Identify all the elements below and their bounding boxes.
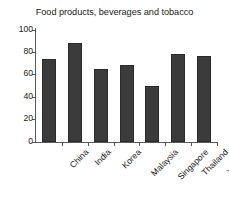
bar: [68, 43, 82, 142]
x-axis-category-label: Korea: [119, 147, 142, 170]
x-axis-category-label: China: [68, 147, 91, 170]
x-axis-tick-mark: [217, 142, 218, 146]
x-axis-tick-mark: [62, 142, 63, 146]
x-axis-category-label: India: [92, 147, 112, 167]
bar: [171, 54, 185, 141]
y-axis-tick-label: 100: [19, 24, 33, 34]
bar-chart-figure: Food products, beverages and tobacco 020…: [0, 0, 229, 202]
plot-area: 020406080100: [36, 30, 217, 142]
bar: [197, 56, 211, 141]
chart-title: Food products, beverages and tobacco: [0, 7, 229, 17]
bar: [145, 86, 159, 142]
x-axis-tick-mark: [88, 142, 89, 146]
bar: [94, 69, 108, 142]
bar: [120, 65, 134, 141]
y-axis-tick-label: 40: [23, 91, 33, 101]
y-axis-tick-label: 0: [28, 136, 33, 146]
x-axis-tick-mark: [114, 142, 115, 146]
x-axis-tick-mark: [139, 142, 140, 146]
x-axis-tick-mark: [191, 142, 192, 146]
bar: [42, 59, 56, 142]
y-axis-tick-label: 20: [23, 113, 33, 123]
x-axis-tick-mark: [165, 142, 166, 146]
y-axis-tick-label: 80: [23, 46, 33, 56]
y-axis-tick-label: 60: [23, 68, 33, 78]
